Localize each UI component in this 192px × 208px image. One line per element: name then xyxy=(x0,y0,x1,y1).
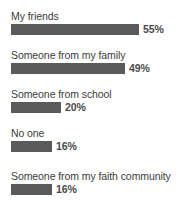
bar-fill xyxy=(11,141,52,152)
bar-category-label: Someone from my family xyxy=(11,50,125,61)
horizontal-bar-chart: My friends 55% Someone from my family 49… xyxy=(0,0,192,208)
bar-fill xyxy=(11,184,52,195)
bar-track: 55% xyxy=(11,24,164,35)
bar-category-label: My friends xyxy=(11,11,59,22)
bar-track: 16% xyxy=(11,141,77,152)
bar-track: 49% xyxy=(11,63,150,74)
bar-fill xyxy=(11,102,61,113)
bar-track: 16% xyxy=(11,184,77,195)
bar-fill xyxy=(11,24,139,35)
bar-fill xyxy=(11,63,125,74)
bar-value-label: 16% xyxy=(56,184,77,195)
bar-value-label: 16% xyxy=(56,141,77,152)
bar-track: 20% xyxy=(11,102,86,113)
bar-category-label: Someone from my faith community xyxy=(11,171,171,182)
bar-value-label: 49% xyxy=(129,63,150,74)
bar-value-label: 20% xyxy=(65,102,86,113)
bar-category-label: No one xyxy=(11,128,44,139)
bar-value-label: 55% xyxy=(143,24,164,35)
bar-category-label: Someone from school xyxy=(11,89,112,100)
